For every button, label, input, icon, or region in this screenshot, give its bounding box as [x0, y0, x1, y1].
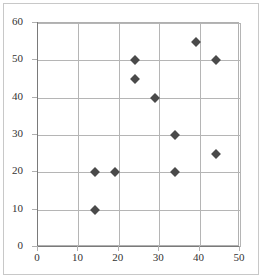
y-axis-line	[37, 22, 38, 247]
gridline-horizontal	[38, 98, 240, 99]
x-tick-label: 40	[184, 252, 214, 263]
x-tick-label: 50	[224, 252, 254, 263]
data-point-marker	[170, 167, 180, 177]
y-tick-label: 20	[0, 165, 23, 176]
x-tick-label: 20	[103, 252, 133, 263]
data-point-marker	[211, 55, 221, 65]
gridline-horizontal	[38, 172, 240, 173]
y-tick-label: 0	[0, 240, 23, 251]
y-tick-mark	[32, 171, 37, 172]
y-tick-mark	[32, 22, 37, 23]
chart-frame: 0102030405060 01020304050	[3, 3, 259, 275]
y-tick-mark	[32, 209, 37, 210]
y-tick-mark	[32, 97, 37, 98]
gridline-vertical	[159, 23, 160, 247]
y-tick-label: 40	[0, 91, 23, 102]
data-point-marker	[130, 55, 140, 65]
data-point-marker	[211, 149, 221, 159]
scatter-chart: 0102030405060 01020304050	[4, 4, 260, 276]
y-tick-label: 50	[0, 53, 23, 64]
data-point-marker	[90, 205, 100, 215]
y-tick-mark	[32, 134, 37, 135]
data-point-marker	[170, 130, 180, 140]
x-axis-line	[37, 246, 240, 247]
gridline-vertical	[119, 23, 120, 247]
data-point-marker	[130, 74, 140, 84]
x-tick-label: 0	[22, 252, 52, 263]
data-point-marker	[191, 37, 201, 47]
y-tick-label: 30	[0, 128, 23, 139]
gridline-vertical	[78, 23, 79, 247]
x-tick-label: 10	[62, 252, 92, 263]
gridline-horizontal	[38, 135, 240, 136]
data-point-marker	[90, 167, 100, 177]
plot-area	[37, 22, 239, 246]
gridline-horizontal	[38, 23, 240, 24]
gridline-horizontal	[38, 210, 240, 211]
y-tick-label: 60	[0, 16, 23, 27]
gridline-vertical	[240, 23, 241, 247]
y-tick-mark	[32, 59, 37, 60]
x-tick-label: 30	[143, 252, 173, 263]
y-tick-label: 10	[0, 203, 23, 214]
gridline-vertical	[200, 23, 201, 247]
